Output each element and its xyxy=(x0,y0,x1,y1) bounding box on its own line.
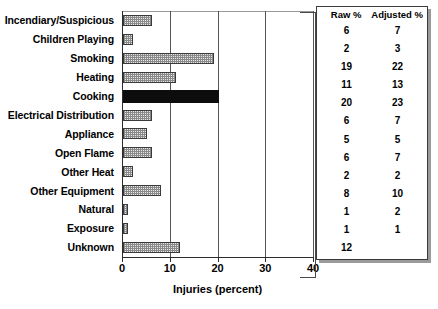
values-table-row: 23 xyxy=(321,40,423,58)
bar-row xyxy=(123,49,314,68)
bar xyxy=(123,242,180,253)
values-table-row: 67 xyxy=(321,112,423,130)
values-table-row: 12 xyxy=(321,239,423,257)
bar xyxy=(123,110,152,121)
raw-percent-cell: 11 xyxy=(321,80,372,90)
raw-percent-cell: 20 xyxy=(321,98,372,108)
values-table-row: 55 xyxy=(321,130,423,148)
category-label: Other Heat xyxy=(0,162,118,181)
category-label: Children Playing xyxy=(0,30,118,49)
bar xyxy=(123,185,161,196)
bar xyxy=(123,34,133,45)
values-table-row: 11 xyxy=(321,221,423,239)
bar xyxy=(123,204,128,215)
adjusted-percent-cell: 2 xyxy=(372,171,423,181)
values-table-row: 22 xyxy=(321,167,423,185)
values-table: Raw %Adjusted % 672319221113202367556722… xyxy=(316,6,428,260)
bar-row xyxy=(123,87,314,106)
values-table-column-header: Raw % xyxy=(321,10,371,20)
category-label: Electrical Distribution xyxy=(0,106,118,125)
x-tick-label: 10 xyxy=(164,263,176,274)
category-label: Incendiary/Suspicious xyxy=(0,11,118,30)
category-label: Appliance xyxy=(0,125,118,144)
bar xyxy=(123,147,152,158)
bar xyxy=(123,15,152,26)
category-axis-labels: Incendiary/SuspiciousChildren PlayingSmo… xyxy=(0,11,118,257)
values-table-row: 67 xyxy=(321,149,423,167)
raw-percent-cell: 5 xyxy=(321,135,372,145)
plot-area xyxy=(122,11,314,258)
adjusted-percent-cell: 5 xyxy=(372,135,423,145)
bar-chart-figure: Incendiary/SuspiciousChildren PlayingSmo… xyxy=(0,0,438,309)
bar-row xyxy=(123,30,314,49)
raw-percent-cell: 2 xyxy=(321,44,372,54)
bar-row xyxy=(123,143,314,162)
values-table-row: 67 xyxy=(321,22,423,40)
category-label: Unknown xyxy=(0,238,118,257)
raw-percent-cell: 6 xyxy=(321,116,372,126)
adjusted-percent-cell: 23 xyxy=(372,98,423,108)
raw-percent-cell: 8 xyxy=(321,189,372,199)
bar-row xyxy=(123,238,314,257)
bar xyxy=(123,128,147,139)
values-table-header: Raw %Adjusted % xyxy=(321,7,423,22)
bar xyxy=(123,72,176,83)
bar xyxy=(123,90,219,103)
category-label: Smoking xyxy=(0,49,118,68)
bar-row xyxy=(123,200,314,219)
values-table-body: 672319221113202367556722810121112 xyxy=(321,22,423,259)
adjusted-percent-cell: 1 xyxy=(372,225,423,235)
category-label: Open Flame xyxy=(0,143,118,162)
x-axis-title: Injuries (percent) xyxy=(122,284,313,295)
adjusted-percent-cell: 7 xyxy=(372,26,423,36)
raw-percent-cell: 6 xyxy=(321,153,372,163)
category-label: Natural xyxy=(0,200,118,219)
raw-percent-cell: 1 xyxy=(321,207,372,217)
values-table-row: 2023 xyxy=(321,94,423,112)
bar-row xyxy=(123,162,314,181)
bar-row xyxy=(123,181,314,200)
bar-row xyxy=(123,106,314,125)
bar-row xyxy=(123,125,314,144)
category-label: Other Equipment xyxy=(0,181,118,200)
adjusted-percent-cell: 2 xyxy=(372,207,423,217)
x-axis-tick-labels: 010203040 xyxy=(0,263,438,279)
adjusted-percent-cell: 7 xyxy=(372,116,423,126)
adjusted-percent-cell: 13 xyxy=(372,80,423,90)
bar xyxy=(123,166,133,177)
table-connector-bracket xyxy=(300,12,316,278)
category-label: Heating xyxy=(0,68,118,87)
bar-row xyxy=(123,219,314,238)
bar-row xyxy=(123,11,314,30)
bar-row xyxy=(123,68,314,87)
values-table-row: 810 xyxy=(321,185,423,203)
bar xyxy=(123,223,128,234)
category-label: Exposure xyxy=(0,219,118,238)
values-table-row: 12 xyxy=(321,203,423,221)
x-tick-label: 0 xyxy=(119,263,125,274)
bar-series xyxy=(123,11,314,257)
category-label: Cooking xyxy=(0,87,118,106)
values-table-column-header: Adjusted % xyxy=(371,10,423,20)
x-tick-label: 20 xyxy=(211,263,223,274)
values-table-row: 1113 xyxy=(321,76,423,94)
raw-percent-cell: 1 xyxy=(321,225,372,235)
raw-percent-cell: 19 xyxy=(321,62,372,72)
values-table-row: 1922 xyxy=(321,58,423,76)
raw-percent-cell: 6 xyxy=(321,26,372,36)
x-tick-label: 30 xyxy=(259,263,271,274)
adjusted-percent-cell: 10 xyxy=(372,189,423,199)
adjusted-percent-cell: 22 xyxy=(372,62,423,72)
adjusted-percent-cell: 7 xyxy=(372,153,423,163)
bar xyxy=(123,53,214,64)
adjusted-percent-cell: 3 xyxy=(372,44,423,54)
raw-percent-cell: 2 xyxy=(321,171,372,181)
raw-percent-cell: 12 xyxy=(321,243,372,253)
